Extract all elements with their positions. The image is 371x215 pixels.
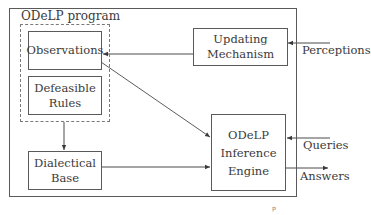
perceptions-label: Perceptions xyxy=(302,43,371,57)
updating-mechanism-node: Updating Mechanism xyxy=(193,28,288,66)
inference-engine-label-line1: ODeLP xyxy=(228,126,269,144)
defeasible-rules-label-line1: Defeasible xyxy=(34,81,95,96)
dialectical-base-node: Dialectical Base xyxy=(28,151,102,190)
inference-engine-node: ODeLP Inference Engine xyxy=(211,114,286,191)
observations-node: Observations xyxy=(28,31,102,70)
answers-label: Answers xyxy=(300,169,350,183)
updating-mechanism-label-line2: Mechanism xyxy=(207,47,274,62)
dialectical-base-label-line1: Dialectical xyxy=(34,156,96,171)
inference-engine-label-line3: Engine xyxy=(228,162,269,180)
defeasible-rules-label-line2: Rules xyxy=(49,96,81,111)
defeasible-rules-node: Defeasible Rules xyxy=(28,76,102,115)
dialectical-base-label-line2: Base xyxy=(51,171,79,186)
queries-label: Queries xyxy=(303,138,349,152)
updating-mechanism-label-line1: Updating xyxy=(213,32,267,47)
inference-engine-label-line2: Inference xyxy=(221,144,277,162)
odelp-program-label: ODeLP program xyxy=(21,9,120,23)
observations-label: Observations xyxy=(27,43,104,58)
stray-mark: p xyxy=(272,201,276,215)
